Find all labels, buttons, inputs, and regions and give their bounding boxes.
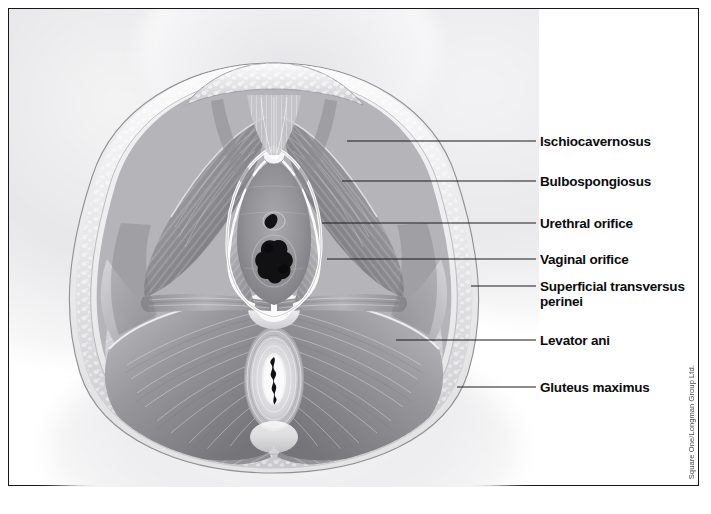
label-bulbospongiosus: Bulbospongiosus	[540, 174, 651, 189]
label-levator-ani: Levator ani	[540, 333, 610, 348]
anococcygeal-body	[250, 421, 298, 453]
vaginal-orifice	[252, 235, 296, 287]
figure-frame: IschiocavernosusBulbospongiosusUrethral …	[8, 8, 699, 486]
label-urethral-orifice: Urethral orifice	[540, 216, 633, 231]
label-vaginal-orifice: Vaginal orifice	[540, 252, 629, 267]
credit-text: Square One/Longman Group Ltd.	[687, 365, 696, 479]
perineum-artwork-svg	[9, 9, 539, 487]
label-ischiocavernosus: Ischiocavernosus	[540, 134, 651, 149]
anal-orifice	[244, 327, 304, 431]
perineum-illustration	[9, 9, 539, 487]
illustration-page: IschiocavernosusBulbospongiosusUrethral …	[0, 0, 711, 514]
label-gluteus-maximus: Gluteus maximus	[540, 380, 650, 395]
label-superficial-transversus-perinei: Superficial transversus perinei	[540, 279, 685, 309]
